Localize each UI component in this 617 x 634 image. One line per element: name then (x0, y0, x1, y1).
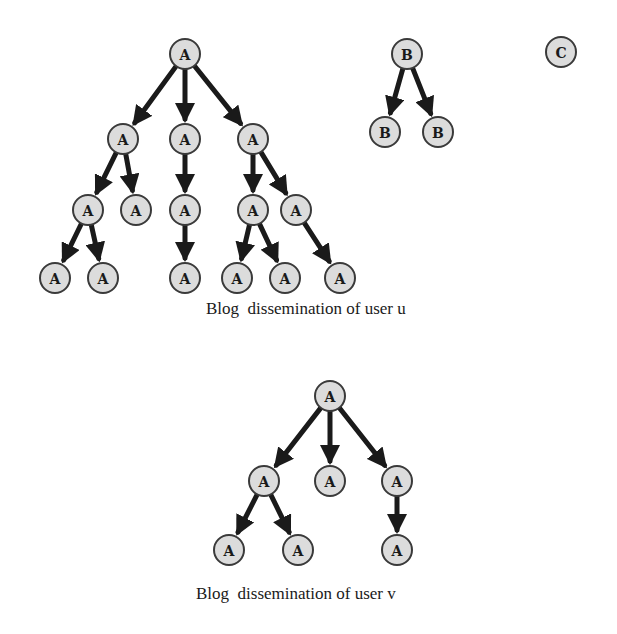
node-label: A (223, 543, 236, 559)
node-label: A (179, 203, 192, 219)
node-a: A (88, 263, 118, 293)
node-label: A (179, 271, 192, 287)
node-label: A (391, 474, 404, 490)
node-b: B (423, 117, 453, 147)
node-a: A (108, 124, 138, 154)
node-label: A (97, 271, 110, 287)
node-a: A (281, 195, 311, 225)
node-label: B (432, 125, 444, 141)
node-label: A (179, 47, 192, 63)
node-b: B (370, 117, 400, 147)
node-label: B (379, 125, 391, 141)
node-a: A (214, 535, 244, 565)
arrow-edge (97, 152, 117, 192)
arrow-edge (126, 154, 133, 191)
arrow-edge (91, 225, 98, 259)
node-a: A (170, 39, 200, 69)
arrow-edge (64, 223, 82, 260)
node-label: A (334, 271, 347, 287)
node-a: A (249, 466, 279, 496)
node-label: A (117, 132, 130, 148)
node-a: A (238, 195, 268, 225)
node-a: A (382, 535, 412, 565)
node-a: A (283, 535, 313, 565)
arrow-edge (339, 408, 384, 466)
arrow-edge (238, 494, 257, 532)
caption-user-v: Blog dissemination of user v (196, 584, 396, 604)
node-label: A (231, 271, 244, 287)
arrow-edge (194, 66, 240, 124)
node-a: A (170, 124, 200, 154)
node-label: A (130, 203, 143, 219)
node-label: A (292, 543, 305, 559)
node-label: A (258, 474, 271, 490)
arrow-edge (413, 68, 431, 113)
node-label: B (401, 47, 413, 63)
node-a: A (238, 124, 268, 154)
node-c: C (546, 37, 576, 67)
node-a: A (73, 195, 103, 225)
arrow-edge (276, 408, 321, 465)
node-label: A (279, 271, 292, 287)
arrow-edge (242, 225, 250, 259)
node-a: A (170, 263, 200, 293)
node-label: A (391, 543, 404, 559)
arrow-edge (259, 224, 276, 260)
node-label: A (290, 203, 303, 219)
arrow-edge (135, 66, 176, 123)
arrow-edge (271, 494, 290, 532)
node-a: A (121, 195, 151, 225)
node-label: A (49, 271, 62, 287)
arrow-edge (304, 223, 329, 262)
node-b: B (392, 39, 422, 69)
arrow-edge (390, 68, 402, 112)
node-label: A (247, 132, 260, 148)
node-a: A (315, 466, 345, 496)
arrow-edge (261, 152, 286, 193)
node-a: A (325, 263, 355, 293)
node-label: A (82, 203, 95, 219)
node-a: A (382, 466, 412, 496)
node-label: A (324, 389, 337, 405)
node-label: A (179, 132, 192, 148)
node-label: A (324, 474, 337, 490)
node-a: A (222, 263, 252, 293)
node-label: A (247, 203, 260, 219)
node-a: A (270, 263, 300, 293)
node-a: A (170, 195, 200, 225)
node-a: A (40, 263, 70, 293)
caption-user-u: Blog dissemination of user u (206, 299, 406, 319)
node-a: A (315, 381, 345, 411)
node-label: C (555, 45, 566, 61)
